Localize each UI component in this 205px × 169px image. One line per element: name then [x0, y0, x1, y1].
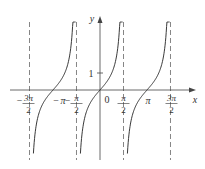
y-tick-label-1: 1: [89, 68, 94, 79]
fraction-numerator: π: [74, 93, 79, 103]
origin-label: 0: [105, 94, 110, 105]
fraction-numerator: 3π: [166, 93, 177, 103]
x-axis-label: x: [192, 94, 198, 105]
x-tick-label-3pi-over-2: 3π2: [165, 93, 177, 115]
minus-sign: −: [17, 95, 23, 106]
minus-sign: −: [65, 95, 71, 106]
fraction-denominator: 2: [26, 105, 31, 115]
x-axis-arrow-icon: [189, 88, 196, 93]
plot-area: xy10−3π2−π2π23π2−ππ: [0, 0, 205, 169]
fraction-denominator: 2: [169, 105, 174, 115]
x-tick-label-neg-3pi-over-2: −3π2: [17, 93, 35, 115]
tan-branch: [33, 22, 75, 153]
tan-branch: [127, 22, 169, 154]
tan-curves: [33, 22, 169, 154]
x-tick-label-neg-pi-over-2: −π2: [65, 93, 83, 115]
x-tick-label-pi: π: [145, 95, 151, 106]
axes: [10, 16, 196, 160]
y-axis-arrow-icon: [98, 16, 103, 23]
fraction-numerator: π: [121, 93, 126, 103]
fraction-denominator: 2: [121, 105, 126, 115]
fraction-denominator: 2: [74, 105, 79, 115]
x-tick-label-neg-pi: −π: [53, 95, 66, 106]
tan-graph: xy10−3π2−π2π23π2−ππ: [0, 0, 205, 169]
minus-sign: −: [53, 95, 59, 106]
y-axis-label: y: [89, 13, 95, 24]
tan-branch: [80, 22, 122, 154]
fraction-numerator: 3π: [23, 93, 34, 103]
